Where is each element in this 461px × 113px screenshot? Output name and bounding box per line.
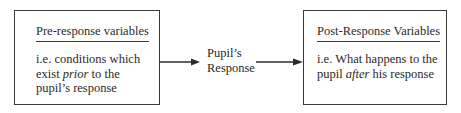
arrows-layer — [0, 0, 461, 113]
arrow-right-icon — [256, 59, 303, 66]
arrow-right-icon — [160, 59, 200, 66]
